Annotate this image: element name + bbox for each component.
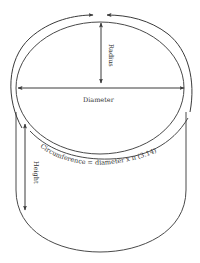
cylinder-diagram: Radius Diameter Height Circumference = d… bbox=[0, 0, 200, 263]
circumference-arrow-right bbox=[107, 15, 192, 112]
radius-label: Radius bbox=[107, 44, 115, 67]
diameter-label: Diameter bbox=[83, 96, 115, 104]
height-label: Height bbox=[32, 161, 40, 184]
cylinder-body bbox=[16, 112, 186, 252]
circumference-arrow-left bbox=[11, 15, 93, 128]
